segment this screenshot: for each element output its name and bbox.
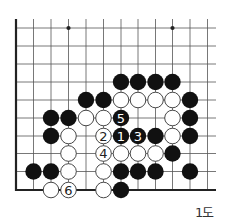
black-stone <box>113 182 129 198</box>
black-stone <box>95 92 111 108</box>
white-stone <box>113 146 129 162</box>
black-stone <box>43 128 59 144</box>
black-stone <box>182 110 198 126</box>
white-stone <box>130 146 146 162</box>
black-stone <box>113 74 129 90</box>
white-stone <box>165 92 181 108</box>
white-stone-move-4: 4 <box>96 146 112 162</box>
black-stone <box>130 163 146 179</box>
black-stone <box>113 163 129 179</box>
white-stone <box>96 164 112 180</box>
move-number: 1 <box>117 129 125 144</box>
black-stone <box>182 128 198 144</box>
go-board-diagram: 521346 <box>0 0 233 223</box>
white-stone-move-6: 6 <box>61 182 77 198</box>
white-stone <box>130 92 146 108</box>
move-number: 5 <box>117 111 125 126</box>
white-stone <box>61 146 77 162</box>
black-stone <box>164 74 180 90</box>
black-stone-move-3: 3 <box>130 128 146 144</box>
move-number: 2 <box>99 129 107 144</box>
black-stone <box>182 163 198 179</box>
black-stone <box>25 163 41 179</box>
white-stone <box>165 128 181 144</box>
black-stone <box>130 74 146 90</box>
white-stone <box>96 110 112 126</box>
white-stone <box>96 182 112 198</box>
white-stone <box>43 182 59 198</box>
black-stone <box>147 74 163 90</box>
black-stone <box>43 110 59 126</box>
white-stone <box>61 128 77 144</box>
white-stone <box>78 110 94 126</box>
black-stone-move-5: 5 <box>113 110 129 126</box>
white-stone <box>113 92 129 108</box>
white-stone <box>148 92 164 108</box>
diagram-caption: 1도 <box>195 202 213 221</box>
black-stone <box>147 163 163 179</box>
black-stone-move-1: 1 <box>113 128 129 144</box>
move-number: 6 <box>64 183 72 198</box>
move-number: 3 <box>134 129 142 144</box>
black-stone <box>43 163 59 179</box>
star-point-icon <box>66 26 70 30</box>
white-stone <box>61 164 77 180</box>
white-stone <box>165 110 181 126</box>
white-stone <box>148 146 164 162</box>
black-stone <box>182 92 198 108</box>
white-stone-move-2: 2 <box>96 128 112 144</box>
black-stone <box>164 145 180 161</box>
black-stone <box>78 92 94 108</box>
star-point-icon <box>170 26 174 30</box>
move-number: 4 <box>99 146 107 161</box>
black-stone <box>60 110 76 126</box>
black-stone <box>147 128 163 144</box>
